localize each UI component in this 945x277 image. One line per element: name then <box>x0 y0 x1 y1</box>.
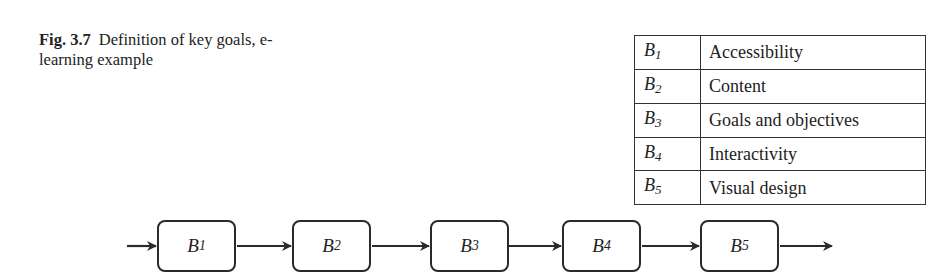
flow-node-b1: B1 <box>157 220 236 272</box>
flow-diagram: B1 B2 B3 B4 B5 <box>0 0 945 277</box>
flow-node-b4: B4 <box>562 220 641 272</box>
flow-node-b3: B3 <box>430 220 509 272</box>
flow-node-b5: B5 <box>700 220 779 272</box>
flow-node-b2: B2 <box>292 220 371 272</box>
